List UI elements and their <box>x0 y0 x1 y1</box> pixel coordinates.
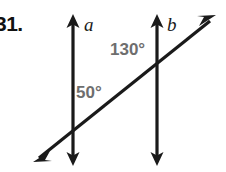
line-a-label: a <box>84 15 94 34</box>
angle-130-label: 130° <box>110 41 145 58</box>
problem-number-label: 31. <box>0 13 23 34</box>
transversal-line <box>33 15 216 162</box>
angle-50-label: 50° <box>76 84 102 101</box>
geometry-figure: 31. a b 130° 50° <box>0 0 226 172</box>
geometry-diagram-svg <box>0 0 226 172</box>
line-b <box>151 14 164 166</box>
line-b-label: b <box>167 15 177 34</box>
transversal-arrowhead-lower-left <box>33 151 52 162</box>
